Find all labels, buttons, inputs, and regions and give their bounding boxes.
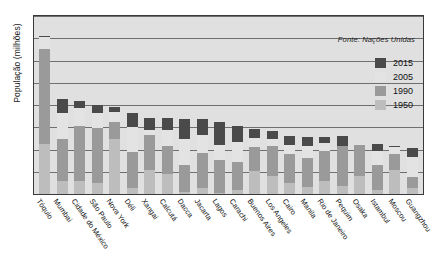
x-label-column: Moscou	[387, 196, 405, 271]
x-tick-label: Cairo	[281, 197, 299, 217]
bar-segment-2015	[144, 118, 155, 130]
bar-segment-1990	[39, 49, 50, 143]
stacked-bar	[162, 118, 173, 194]
x-label-column: Nova York	[105, 196, 123, 271]
x-tick-label: Dacca	[175, 197, 194, 219]
stacked-bar	[92, 105, 103, 194]
bar-column	[229, 16, 247, 194]
legend-item: 1990	[375, 84, 413, 98]
stacked-bar	[74, 101, 85, 194]
legend-swatch-icon	[375, 58, 386, 68]
legend: 2015200519901950	[375, 56, 413, 112]
bar-segment-1950	[109, 139, 120, 194]
bar-segment-2015	[302, 137, 313, 147]
bar-segment-2015	[214, 122, 225, 144]
bar-column	[71, 16, 89, 194]
stacked-bar	[127, 113, 138, 194]
bar-segment-2005	[389, 147, 400, 154]
x-tick-label: Guangzhou	[404, 197, 431, 233]
stacked-bar	[372, 144, 383, 194]
x-label-column: Lagos	[211, 196, 229, 271]
stacked-bar	[179, 119, 190, 194]
x-label-column: Calcutá	[158, 196, 176, 271]
x-tick-label: Osaka	[351, 197, 371, 220]
bar-segment-1950	[232, 190, 243, 194]
x-label-column: Istambul	[369, 196, 387, 271]
bar-column	[36, 16, 54, 194]
bar-segment-2005	[74, 108, 85, 126]
bar-segment-1950	[197, 188, 208, 194]
bar-segment-2005	[179, 139, 190, 165]
bar-segment-1990	[284, 154, 295, 184]
legend-item: 2005	[375, 70, 413, 84]
legend-item: 1950	[375, 98, 413, 112]
bar-segment-2015	[162, 118, 173, 130]
bar-segment-2005	[249, 138, 260, 147]
bar-segment-1950	[337, 186, 348, 194]
bar-segment-1950	[319, 181, 330, 194]
x-tick-label: Déli	[122, 197, 137, 213]
bar-segment-1950	[214, 193, 225, 194]
bar-segment-1950	[389, 170, 400, 194]
legend-label: 1990	[393, 86, 413, 96]
bar-segment-2005	[284, 145, 295, 154]
bar-segment-2015	[249, 129, 260, 138]
bar-segment-2005	[92, 113, 103, 129]
stacked-bar	[249, 129, 260, 194]
bar-column	[54, 16, 72, 194]
legend-item: 2015	[375, 56, 413, 70]
bar-column	[299, 16, 317, 194]
x-label-column: Guangzhou	[404, 196, 422, 271]
bar-segment-1950	[162, 174, 173, 194]
bar-segment-1990	[197, 153, 208, 188]
legend-swatch-icon	[375, 100, 386, 110]
stacked-bar	[354, 144, 365, 194]
stacked-bar	[407, 148, 418, 194]
bar-segment-1950	[302, 187, 313, 194]
bar-segment-1950	[39, 144, 50, 194]
bar-segment-2015	[337, 136, 348, 146]
x-label-column: Tóquio	[35, 196, 53, 271]
stacked-bar	[197, 119, 208, 194]
bar-segment-2005	[319, 143, 330, 151]
bar-segment-1950	[127, 188, 138, 194]
stacked-bar	[284, 136, 295, 194]
bar-segment-2015	[372, 144, 383, 151]
bar-segment-1950	[179, 192, 190, 194]
bar-segment-2015	[267, 131, 278, 139]
bar-segment-2005	[302, 146, 313, 158]
bar-segment-2005	[372, 151, 383, 165]
stacked-bar	[267, 131, 278, 194]
stacked-bar	[39, 36, 50, 194]
bar-column	[246, 16, 264, 194]
bar-segment-2015	[74, 101, 85, 108]
bar-segment-2005	[197, 135, 208, 152]
bar-segment-1990	[162, 146, 173, 175]
bar-segment-1990	[232, 162, 243, 189]
bar-segment-1950	[267, 176, 278, 194]
bar-column	[176, 16, 194, 194]
bar-segment-1990	[337, 146, 348, 187]
y-axis-title: População (milhões)	[12, 0, 22, 138]
bar-column	[159, 16, 177, 194]
bar-segment-1990	[92, 128, 103, 183]
bar-segment-2015	[407, 148, 418, 157]
bar-segment-1990	[267, 146, 278, 177]
bar-segment-1990	[127, 152, 138, 188]
bar-segment-1990	[249, 147, 260, 171]
bar-segment-1950	[144, 170, 155, 194]
bar-segment-1950	[92, 183, 103, 194]
bar-segment-1950	[57, 181, 68, 194]
bar-segment-2015	[284, 136, 295, 145]
bar-segment-2005	[127, 127, 138, 152]
bar-segment-2005	[39, 37, 50, 49]
bar-segment-1990	[302, 158, 313, 187]
stacked-bar	[319, 137, 330, 194]
chart-figure: População (milhões) 0510152025303540 Fon…	[0, 0, 431, 271]
stacked-bar	[109, 107, 120, 194]
x-label-column: Xangai	[141, 196, 159, 271]
bar-column	[89, 16, 107, 194]
x-label-column: Déli	[123, 196, 141, 271]
stacked-bar	[214, 122, 225, 194]
bar-column	[316, 16, 334, 194]
